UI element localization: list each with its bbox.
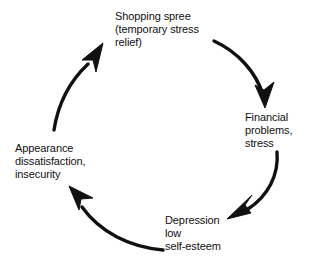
- node-label-depression-low-self-esteem: Depression low self-esteem: [165, 214, 221, 253]
- arrow-depression-to-appearance: [69, 186, 163, 250]
- node-label-appearance-dissatisfaction: Appearance dissatisfaction, insecurity: [15, 142, 86, 181]
- node-label-shopping-spree: Shopping spree (temporary stress relief): [115, 10, 199, 49]
- arrow-appearance-to-shopping: [54, 43, 103, 130]
- node-label-financial-problems: Financial problems, stress: [245, 111, 292, 150]
- arrow-financial-to-depression: [227, 152, 277, 219]
- cycle-diagram: Shopping spree (temporary stress relief)…: [0, 0, 314, 277]
- arrow-shopping-to-financial: [214, 41, 274, 108]
